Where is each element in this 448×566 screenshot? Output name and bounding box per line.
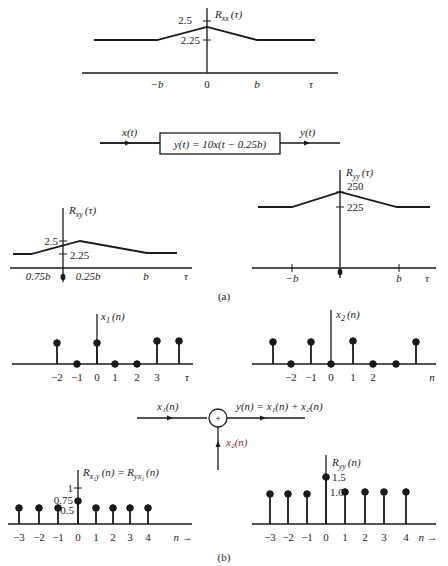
caption-a: (a)	[218, 290, 231, 303]
rx1y-xtick: −2	[33, 531, 45, 543]
rxy-tick-top: 2.5	[44, 235, 58, 247]
adder-diagram	[137, 409, 305, 470]
rxy-tick-bottom: 2.25	[70, 249, 90, 261]
x1-xtick: 2	[134, 371, 140, 383]
ryy-n-xtick: 3	[381, 531, 387, 543]
x2-xtick: 0	[328, 371, 334, 383]
adder-plus-symbol: +	[215, 413, 221, 424]
ryy-xtick-tau: τ	[425, 272, 430, 284]
ryy-n-label: Ryy(n)	[331, 456, 361, 471]
rx1y-xtick: 0	[75, 531, 81, 543]
block-output-label: y(t)	[299, 126, 316, 139]
rxx-tick-bottom: 2.25	[181, 34, 201, 46]
block-equation: y(t) = 10x(t − 0.25b)	[173, 138, 266, 151]
rxx-xtick-b: b	[254, 78, 260, 90]
rx1y-xtick: −3	[13, 531, 25, 543]
rxx-xtick-0: 0	[204, 78, 210, 90]
ryy-n-xtick: 1	[342, 531, 348, 543]
ryy-n-xtick-n: n →	[418, 531, 437, 543]
rx1y-ytick-1: 1	[68, 482, 74, 494]
x1-label: x1(n)	[100, 310, 125, 325]
adder-output-label: y(n) = x₁(n) + x₂(n)	[235, 400, 323, 413]
rx1y-xtick: 4	[145, 531, 151, 543]
rxx-xtick-tau: τ	[309, 78, 314, 90]
x1-xtick: −2	[51, 371, 63, 383]
x2-xtick: 1	[350, 371, 356, 383]
rxx-curve	[94, 27, 315, 40]
rxy-xtick-b: b	[143, 270, 149, 282]
rxy-curve	[13, 241, 177, 254]
rxx-xtick-neg-b: −b	[151, 78, 164, 90]
x2-xtick-n: n	[429, 371, 435, 383]
x1-xtick-tau: τ	[185, 371, 190, 383]
ryy-n-xtick: 0	[323, 531, 329, 543]
rxx-tick-top: 2.5	[178, 14, 192, 26]
ryy-n-ytick-15: 1.5	[332, 471, 346, 483]
rx1y-ytick-05: 0.5	[60, 504, 74, 516]
ryy-n-xtick: 2	[362, 531, 368, 543]
adder-input1-label: x₁(n)	[156, 400, 179, 413]
rx1y-stem-plot	[8, 470, 192, 524]
ryy-xtick-neg-b: −b	[286, 272, 299, 284]
figure-canvas: 2.5 2.25 Rxx(τ) −b 0 b τ x(t) y(t) y(t) …	[0, 0, 448, 566]
rx1y-xtick: 1	[93, 531, 99, 543]
block-input-label: x(t)	[121, 126, 138, 139]
x2-xtick: −2	[285, 371, 297, 383]
x2-xtick: −1	[305, 371, 317, 383]
ryy-n-xtick: −2	[282, 531, 294, 543]
x2-label: x2(n)	[335, 308, 360, 323]
ryy-n-xtick: 4	[403, 531, 409, 543]
x1-xtick: 1	[112, 371, 118, 383]
ryy-n-xtick: −1	[301, 531, 313, 543]
rxx-label: Rxx(τ)	[214, 8, 242, 23]
rx1y-xtick: 3	[127, 531, 133, 543]
ryy-n-ytick-10: 1.0	[330, 486, 344, 498]
rx1y-xtick-n: n →	[173, 531, 192, 543]
x1-xtick: −1	[71, 371, 83, 383]
ryy-xtick-b: b	[396, 272, 402, 284]
ryy-curve	[258, 192, 430, 207]
rxy-label: Rxy(τ)	[68, 204, 96, 219]
rxy-xtick-075b: 0.75b	[26, 270, 51, 282]
rxy-xtick-025b: 0.25b	[76, 270, 101, 282]
rxy-xtick-tau: τ	[184, 270, 189, 282]
ryy-plot	[252, 170, 436, 278]
ryy-tick-bottom: 225	[347, 201, 364, 213]
ryy-label: Ryy(τ)	[345, 166, 373, 181]
rx1y-label: Rx₁y(n) = Ryx₁(n)	[82, 466, 159, 481]
x2-xtick: 2	[370, 371, 376, 383]
x1-xtick: 3	[154, 371, 160, 383]
caption-b: (b)	[218, 551, 231, 564]
ryy-tick-top: 250	[347, 180, 364, 192]
rx1y-xtick: 2	[110, 531, 116, 543]
x1-xtick: 0	[94, 371, 100, 383]
rxx-plot	[82, 8, 338, 73]
adder-input2-label: x₂(n)	[225, 436, 248, 449]
rx1y-xtick: −1	[52, 531, 64, 543]
ryy-n-xtick: −3	[264, 531, 276, 543]
